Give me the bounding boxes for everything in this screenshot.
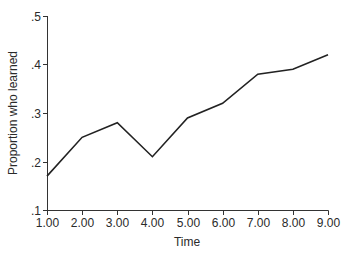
y-tick-label: .3 bbox=[31, 107, 41, 121]
x-tick-label: 2.00 bbox=[71, 216, 95, 230]
x-tick-label: 9.00 bbox=[317, 216, 341, 230]
x-axis: 1.002.003.004.005.006.007.008.009.00 bbox=[36, 211, 341, 231]
line-chart: .1.2.3.4.5 1.002.003.004.005.006.007.008… bbox=[0, 0, 348, 255]
x-tick-label: 7.00 bbox=[247, 216, 271, 230]
x-tick-label: 8.00 bbox=[282, 216, 306, 230]
y-tick-label: .5 bbox=[31, 10, 41, 24]
y-axis: .1.2.3.4.5 bbox=[31, 10, 48, 218]
data-line bbox=[47, 55, 328, 176]
y-tick-label: .4 bbox=[31, 58, 41, 72]
x-tick-label: 3.00 bbox=[106, 216, 130, 230]
x-tick-label: 6.00 bbox=[212, 216, 236, 230]
x-axis-title: Time bbox=[174, 235, 201, 249]
x-tick-label: 4.00 bbox=[141, 216, 165, 230]
x-tick-label: 5.00 bbox=[177, 216, 201, 230]
y-tick-label: .2 bbox=[31, 156, 41, 170]
y-axis-title: Proportion who learned bbox=[6, 51, 20, 175]
x-tick-label: 1.00 bbox=[36, 216, 60, 230]
